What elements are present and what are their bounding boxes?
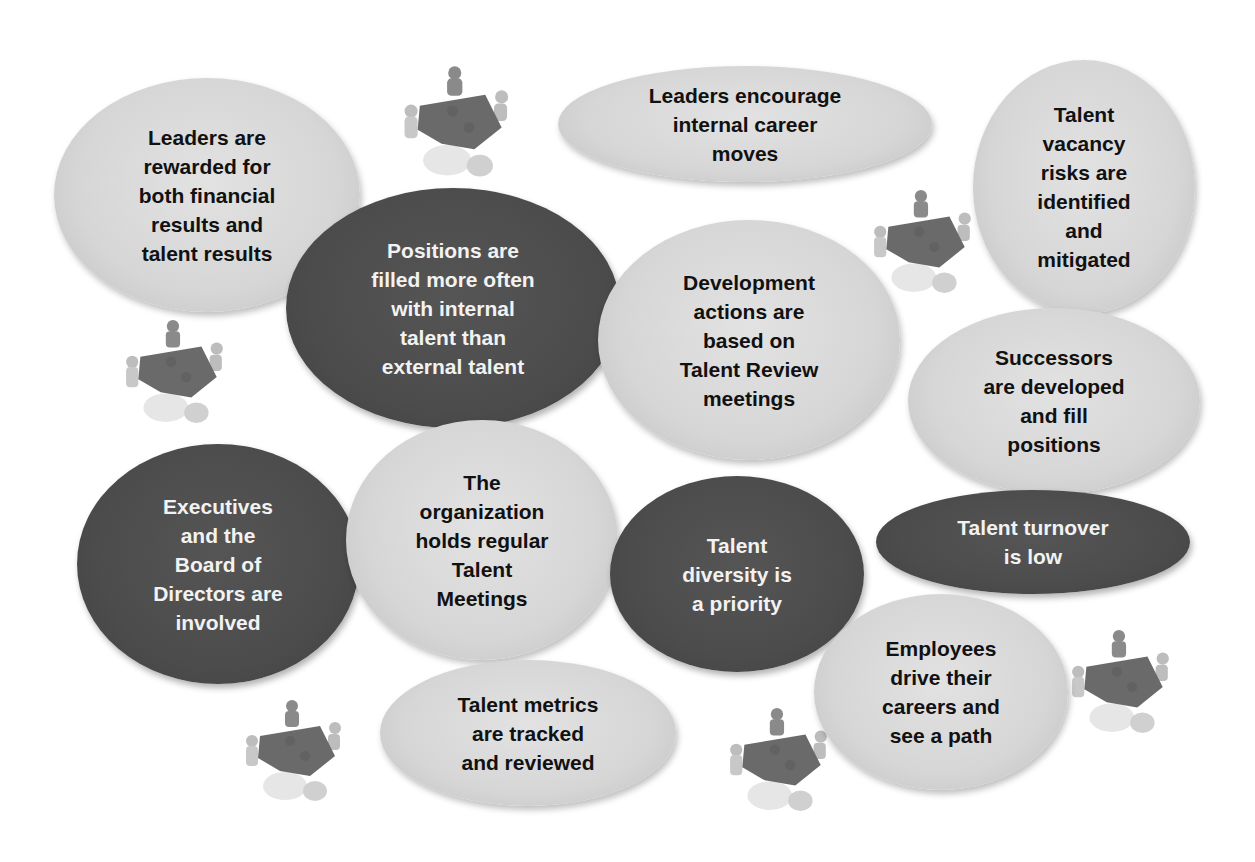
bubble-vacancy-risks: Talent vacancy risks are identified and … <box>973 60 1195 314</box>
bubble-text: Talent turnover is low <box>957 513 1108 571</box>
bubble-text: Talent diversity is a priority <box>682 531 792 618</box>
bubble-metrics: Talent metrics are tracked and reviewed <box>380 660 676 806</box>
bubble-diversity: Talent diversity is a priority <box>610 476 864 672</box>
bubble-employees-drive: Employees drive their careers and see a … <box>814 594 1068 790</box>
bubble-text: Leaders are rewarded for both financial … <box>139 123 276 268</box>
bubble-executives-board: Executives and the Board of Directors ar… <box>77 444 359 684</box>
bubble-text: Talent metrics are tracked and reviewed <box>458 690 599 777</box>
bubble-text: The organization holds regular Talent Me… <box>415 468 548 613</box>
bubble-leaders-encourage: Leaders encourage internal career moves <box>558 66 932 182</box>
bubble-regular-meetings: The organization holds regular Talent Me… <box>346 420 618 660</box>
bubble-positions-filled: Positions are filled more often with int… <box>286 188 620 428</box>
bubble-text: Positions are filled more often with int… <box>371 236 534 381</box>
bubble-text: Successors are developed and fill positi… <box>983 343 1124 459</box>
team-puzzle-icon <box>868 186 980 298</box>
bubble-text: Executives and the Board of Directors ar… <box>153 492 283 637</box>
team-puzzle-icon <box>1066 626 1178 738</box>
bubble-successors: Successors are developed and fill positi… <box>908 308 1200 494</box>
team-puzzle-icon <box>240 696 350 806</box>
bubble-text: Development actions are based on Talent … <box>680 268 819 413</box>
bubble-text: Employees drive their careers and see a … <box>882 634 1000 750</box>
team-puzzle-icon <box>398 62 518 182</box>
bubble-text: Talent vacancy risks are identified and … <box>1037 100 1130 274</box>
bubble-development-actions: Development actions are based on Talent … <box>598 220 900 460</box>
bubble-turnover: Talent turnover is low <box>876 490 1190 594</box>
team-puzzle-icon <box>120 316 232 428</box>
bubble-text: Leaders encourage internal career moves <box>649 81 842 168</box>
